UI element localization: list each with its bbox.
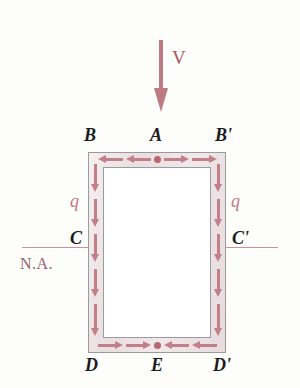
box-inner-cavity (103, 167, 211, 338)
label-point-c-prime: C' (232, 229, 249, 247)
flow-arrow-bottom-3 (164, 341, 189, 350)
load-arrow-v (154, 40, 168, 112)
flow-arrow-right-5 (214, 304, 223, 336)
flow-arrow-left-1 (91, 164, 100, 192)
label-point-d: D (85, 356, 98, 374)
flow-dot-a (154, 156, 161, 163)
shear-flow-diagram: V N.A. (0, 0, 300, 388)
flow-arrow-top-1 (98, 155, 123, 164)
box-cross-section (88, 152, 226, 353)
label-neutral-axis: N.A. (20, 256, 53, 272)
label-point-b-prime: B' (215, 126, 232, 144)
flow-arrow-left-2 (91, 199, 100, 227)
flow-arrow-top-3 (164, 155, 189, 164)
flow-dot-e (154, 342, 161, 349)
flow-arrow-left-3 (91, 234, 100, 262)
flow-arrow-left-4 (91, 269, 100, 297)
load-arrow-head (154, 88, 168, 112)
flow-arrow-bottom-2 (126, 341, 151, 350)
flow-arrow-right-2 (214, 199, 223, 227)
flow-arrow-top-4 (192, 155, 217, 164)
label-shear-flow-right: q (231, 192, 240, 210)
flow-arrow-top-2 (126, 155, 151, 164)
label-point-a: A (150, 126, 162, 144)
label-point-c: C (70, 229, 82, 247)
label-point-b: B (84, 126, 96, 144)
flow-arrow-right-3 (214, 234, 223, 262)
flow-arrow-bottom-1 (98, 341, 123, 350)
load-arrow-shaft (159, 40, 163, 92)
label-shear-flow-left: q (70, 192, 79, 210)
label-point-e: E (151, 356, 163, 374)
label-shear-force-v: V (172, 48, 186, 67)
flow-arrow-bottom-4 (192, 341, 217, 350)
flow-arrow-right-4 (214, 269, 223, 297)
flow-arrow-left-5 (91, 304, 100, 336)
flow-arrow-right-1 (214, 164, 223, 192)
label-point-d-prime: D' (213, 356, 231, 374)
